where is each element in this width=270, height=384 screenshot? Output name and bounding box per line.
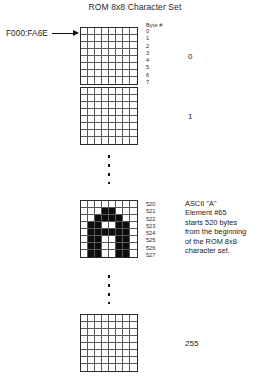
ellipsis-dot (108, 302, 110, 304)
pixel-cell (109, 88, 116, 95)
pixel-cell (95, 208, 102, 215)
pixel-cell (88, 95, 95, 102)
pixel-cell (130, 77, 137, 84)
pixel-cell (102, 49, 109, 56)
pixel-cell (116, 116, 123, 123)
pixel-cell (81, 130, 88, 137)
pixel-cell (109, 250, 116, 257)
annotation-line: ASCII "A" (185, 199, 270, 208)
pixel-cell (109, 222, 116, 229)
pixel-cell (116, 35, 123, 42)
pixel-cell (109, 95, 116, 102)
pixel-cell (95, 215, 102, 222)
pixel-cell (116, 42, 123, 49)
pixel-cell (88, 42, 95, 49)
pixel-cell (88, 336, 95, 343)
pixel-cell (88, 322, 95, 329)
pixel-cell (81, 102, 88, 109)
pixel-cell (81, 63, 88, 70)
character-grid-element-1 (80, 87, 138, 145)
pixel-cell (130, 243, 137, 250)
pixel-cell (81, 42, 88, 49)
pixel-cell (81, 201, 88, 208)
pixel-cell (130, 350, 137, 357)
pixel-cell (88, 109, 95, 116)
pixel-cell (130, 109, 137, 116)
pixel-cell (81, 88, 88, 95)
pixel-cell (102, 243, 109, 250)
pixel-cell (130, 35, 137, 42)
byte-number: 524 (146, 230, 155, 237)
pixel-cell (88, 236, 95, 243)
pixel-cell (88, 315, 95, 322)
pixel-cell (116, 70, 123, 77)
pixel-cell (116, 250, 123, 257)
pixel-cell (102, 77, 109, 84)
pixel-cell (95, 322, 102, 329)
right-arrow-icon (52, 30, 79, 37)
pixel-cell (102, 329, 109, 336)
pixel-cell (123, 77, 130, 84)
pixel-cell (95, 116, 102, 123)
pixel-cell (123, 116, 130, 123)
pixel-cell (109, 236, 116, 243)
element-index-1: 1 (188, 112, 192, 121)
element-index-0: 0 (188, 52, 192, 61)
annotation-line: from the beginning (185, 227, 270, 236)
pixel-cell (102, 95, 109, 102)
pixel-cell (130, 322, 137, 329)
pixel-cell (130, 123, 137, 130)
pixel-cell (130, 56, 137, 63)
pixel-cell (109, 215, 116, 222)
figure-title: ROM 8x8 Character Set (0, 2, 270, 12)
pixel-cell (102, 63, 109, 70)
pixel-cell (95, 201, 102, 208)
pixel-cell (81, 222, 88, 229)
ellipsis-dot (108, 164, 110, 166)
pixel-cell (88, 28, 95, 35)
pixel-cell (109, 116, 116, 123)
pixel-cell (102, 116, 109, 123)
pixel-cell (116, 215, 123, 222)
pixel-cell (95, 28, 102, 35)
pixel-cell (130, 137, 137, 144)
pixel-cell (116, 329, 123, 336)
pixel-cell (88, 56, 95, 63)
pixel-cell (81, 329, 88, 336)
pixel-cell (95, 222, 102, 229)
pixel-cell (130, 236, 137, 243)
pixel-cell (102, 250, 109, 257)
pixel-cell (123, 95, 130, 102)
pixel-cell (130, 130, 137, 137)
pixel-cell (81, 77, 88, 84)
pixel-cell (116, 315, 123, 322)
pixel-cell (130, 229, 137, 236)
pixel-cell (123, 28, 130, 35)
pixel-cell (116, 130, 123, 137)
byte-number: 3 (146, 50, 149, 57)
pixel-cell (123, 322, 130, 329)
pixel-cell (102, 364, 109, 371)
pixel-cell (123, 336, 130, 343)
pixel-cell (81, 109, 88, 116)
pixel-cell (81, 70, 88, 77)
pixel-cell (123, 123, 130, 130)
byte-number: 526 (146, 245, 155, 252)
pixel-cell (88, 350, 95, 357)
pixel-cell (123, 63, 130, 70)
pixel-cell (109, 102, 116, 109)
pixel-cell (123, 364, 130, 371)
pixel-cell (130, 102, 137, 109)
pixel-cell (123, 201, 130, 208)
pixel-cell (130, 329, 137, 336)
pixel-cell (130, 215, 137, 222)
pixel-cell (95, 229, 102, 236)
pixel-cell (95, 137, 102, 144)
pixel-cell (116, 357, 123, 364)
byte-number: 522 (146, 216, 155, 223)
pixel-cell (102, 201, 109, 208)
pixel-cell (123, 250, 130, 257)
pixel-cell (116, 63, 123, 70)
pixel-cell (109, 357, 116, 364)
pixel-cell (102, 322, 109, 329)
